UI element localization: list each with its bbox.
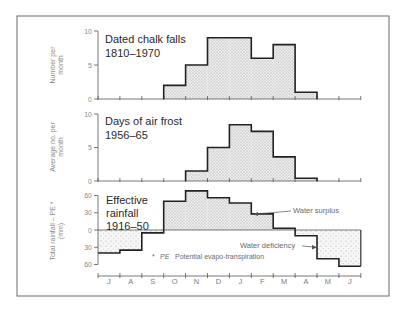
month-label: M xyxy=(281,277,287,286)
chalk-falls-ylabel-line1: Number per xyxy=(49,46,57,84)
footnote-star: * xyxy=(152,253,155,260)
water-deficiency-label: Water deficiency xyxy=(240,241,295,250)
bar xyxy=(186,171,208,181)
bar xyxy=(164,201,186,230)
y-tick-label: 10 xyxy=(84,28,92,35)
y-tick-label: 5 xyxy=(88,62,92,69)
month-label: M xyxy=(325,277,331,286)
air-frost-ylabel-line2: month xyxy=(57,137,64,157)
rainfall-title-line2: rainfall xyxy=(106,207,138,219)
y-tick-label: 30 xyxy=(84,209,92,216)
rainfall-title-line3: 1916–50 xyxy=(106,220,149,232)
bar xyxy=(164,85,186,99)
y-tick-label: 60 xyxy=(84,261,92,268)
bar xyxy=(273,45,295,99)
air-frost-title-line1: Days of air frost xyxy=(105,115,182,127)
air-frost-title-line2: 1956–65 xyxy=(105,129,148,141)
y-tick-label: 0 xyxy=(88,96,92,103)
air-frost-ylabel-line1: Average no. per xyxy=(49,121,57,171)
bar xyxy=(120,230,142,250)
rainfall-title-line1: Effective xyxy=(106,194,148,206)
water-surplus-label: Water surplus xyxy=(293,206,339,215)
bar xyxy=(251,131,273,181)
month-label: J xyxy=(348,277,352,286)
chalk-falls-title-line1: Dated chalk falls xyxy=(105,33,186,45)
month-label: D xyxy=(216,277,222,286)
month-label: J xyxy=(238,277,242,286)
figure: 0510 Dated chalk falls 1810–1970 Number … xyxy=(0,0,403,309)
bar xyxy=(98,230,120,253)
bar xyxy=(229,203,251,230)
bar xyxy=(339,230,361,266)
month-label: A xyxy=(304,277,309,286)
y-tick-label: 30 xyxy=(84,244,92,251)
bar xyxy=(251,58,273,99)
chalk-falls-title-line2: 1810–1970 xyxy=(105,47,160,59)
y-tick-label: 0 xyxy=(88,178,92,185)
bar xyxy=(186,191,208,230)
bar xyxy=(317,230,339,259)
month-label: A xyxy=(128,277,133,286)
month-label: O xyxy=(172,277,178,286)
y-tick-label: 60 xyxy=(84,192,92,199)
footnote-text: Potential evapo-transpiration xyxy=(175,253,264,261)
rainfall-ylabel-line2: (mm) xyxy=(57,223,65,239)
bar xyxy=(229,125,251,181)
month-label: S xyxy=(150,277,155,286)
month-axis: JASONDJFMAMJ xyxy=(98,273,361,286)
month-label: J xyxy=(107,277,111,286)
bar xyxy=(229,38,251,99)
bar xyxy=(208,148,230,182)
y-tick-label: 10 xyxy=(84,111,92,118)
bar xyxy=(208,198,230,230)
bar xyxy=(208,38,230,99)
month-label: F xyxy=(260,277,265,286)
chalk-falls-ylabel-line2: month xyxy=(57,55,64,75)
rainfall-ylabel-line1: Total rainfall – PE * xyxy=(49,201,56,260)
bar xyxy=(273,157,295,181)
bar xyxy=(251,214,273,230)
footnote-pe: PE xyxy=(160,253,170,260)
bar xyxy=(295,230,317,236)
y-tick-label: 5 xyxy=(88,144,92,151)
bar xyxy=(295,92,317,99)
y-tick-label: 0 xyxy=(88,227,92,234)
bar xyxy=(186,65,208,99)
month-label: N xyxy=(194,277,199,286)
